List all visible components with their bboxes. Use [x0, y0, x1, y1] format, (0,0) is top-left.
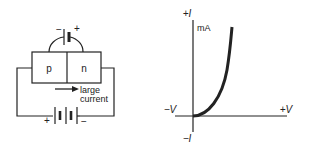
left-wire: [17, 68, 53, 116]
bias-negative-label: −: [56, 24, 62, 35]
n-region-label: n: [81, 63, 87, 74]
x-negative-label: −V: [164, 104, 178, 115]
y-negative-label: −I: [183, 133, 192, 144]
bias-arc-right: [70, 37, 83, 52]
iv-curve: [193, 27, 232, 116]
supply-positive-label: +: [44, 115, 50, 126]
unit-label: mA: [197, 23, 211, 33]
current-label-line2: current: [80, 94, 109, 104]
supply-battery-icon: [55, 107, 80, 124]
x-positive-label: +V: [280, 104, 294, 115]
bias-positive-label: +: [74, 23, 80, 34]
p-region-label: p: [46, 63, 52, 74]
diode-diagram: p n − + + − large current +I mA −V +V −I: [0, 0, 318, 152]
bias-arc-left: [49, 37, 64, 52]
y-positive-label: +I: [183, 8, 192, 19]
current-arrow-icon: [72, 86, 79, 92]
supply-negative-label: −: [81, 116, 87, 127]
